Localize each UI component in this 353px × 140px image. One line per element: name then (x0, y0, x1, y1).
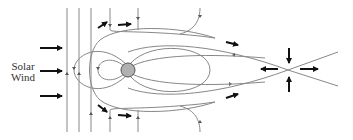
closed-field-lines (72, 48, 265, 91)
magnetopause (90, 29, 216, 112)
solar-wind-arrows (40, 48, 62, 96)
imf-field-lines (65, 8, 93, 132)
magnetosphere-diagram: Solar Wind (0, 0, 353, 140)
earth (121, 63, 135, 77)
flow-arrows (98, 22, 238, 116)
wind-label: Wind (8, 72, 38, 83)
